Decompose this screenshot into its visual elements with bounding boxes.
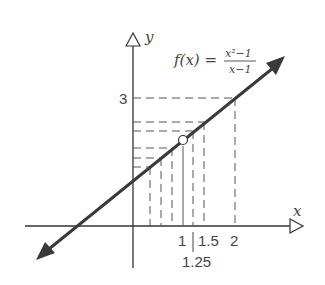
function-line bbox=[36, 56, 285, 260]
y-axis-arrow-icon bbox=[126, 33, 140, 46]
x-tick-1-25: 1.25 bbox=[182, 253, 211, 270]
y-tick-3: 3 bbox=[119, 90, 127, 107]
y-axis bbox=[126, 33, 140, 268]
x-axis-arrow-icon bbox=[290, 219, 303, 233]
formula-numerator: x²−1 bbox=[225, 47, 252, 60]
y-axis-label: y bbox=[144, 28, 154, 46]
graph-canvas: y x 3 1 1.5 2 1.25 f(x) = x²−1 x−1 bbox=[0, 0, 325, 285]
vertical-guides bbox=[150, 98, 235, 226]
x-axis-label: x bbox=[293, 202, 302, 220]
horizontal-guides bbox=[133, 98, 235, 167]
formula-denominator: x−1 bbox=[229, 63, 251, 76]
function-label: f(x) = bbox=[173, 51, 217, 69]
x-tick-1: 1 bbox=[178, 232, 186, 249]
x-tick-1-5: 1.5 bbox=[198, 232, 219, 249]
x-axis bbox=[25, 219, 303, 233]
hole-point bbox=[179, 136, 188, 145]
x-tick-2: 2 bbox=[230, 232, 238, 249]
